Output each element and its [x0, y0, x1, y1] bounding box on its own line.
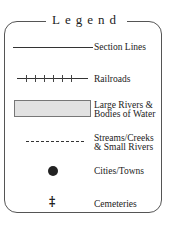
- stream-symbol: [26, 141, 84, 142]
- section-line-symbol: [13, 47, 93, 48]
- water-label-line2: Bodies of Water: [94, 110, 155, 119]
- city-dot-icon: [48, 166, 58, 176]
- railroad-symbol: [17, 78, 88, 79]
- section-lines-label: Section Lines: [94, 43, 146, 52]
- water-symbol: [14, 100, 91, 117]
- cemetery-cross-icon: ‡: [49, 196, 55, 208]
- legend-title: Legend: [46, 12, 127, 28]
- railroads-label: Railroads: [94, 75, 130, 84]
- cities-label: Cities/Towns: [94, 167, 144, 176]
- legend-title-wrap: Legend: [0, 9, 173, 28]
- streams-label-line2: & Small Rivers: [94, 143, 153, 152]
- cemeteries-label: Cemeteries: [94, 200, 137, 209]
